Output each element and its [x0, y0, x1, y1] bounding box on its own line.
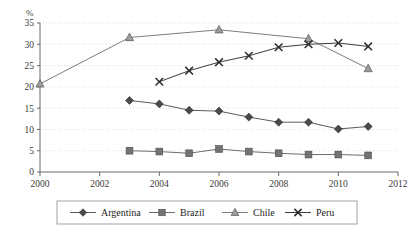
- data-point-marker: [275, 118, 283, 126]
- data-point-marker: [36, 79, 44, 87]
- legend-label: Brazil: [180, 207, 205, 218]
- data-point-marker: [215, 58, 223, 66]
- series-lines: [36, 25, 372, 158]
- data-point-marker: [156, 78, 164, 86]
- series-brazil: [126, 146, 371, 159]
- data-point-marker: [126, 96, 134, 104]
- data-point-marker: [305, 151, 312, 158]
- data-point-marker: [215, 107, 223, 115]
- legend-label: Argentina: [101, 207, 141, 218]
- data-point-marker: [159, 209, 165, 215]
- data-point-marker: [245, 52, 253, 60]
- y-tick-label: 30: [25, 40, 35, 50]
- data-point-marker: [155, 100, 163, 108]
- x-tick-label: 2000: [31, 179, 50, 189]
- data-point-marker: [185, 106, 193, 114]
- series-polyline: [159, 43, 368, 82]
- legend-item-brazil[interactable]: Brazil: [149, 207, 205, 218]
- data-point-marker: [335, 151, 342, 158]
- data-point-marker: [334, 125, 342, 133]
- y-axis-tick-labels: 05101520253035: [25, 18, 35, 177]
- series-peru: [156, 39, 372, 85]
- grid-lines: [40, 23, 398, 151]
- series-argentina: [126, 96, 373, 133]
- legend-item-chile[interactable]: Chile: [222, 207, 275, 218]
- x-axis: [40, 172, 398, 176]
- legend-label: Peru: [316, 207, 334, 218]
- chart-legend: ArgentinaBrazilChilePeru: [57, 201, 357, 224]
- data-point-marker: [364, 64, 372, 72]
- x-tick-label: 2012: [389, 179, 408, 189]
- data-point-marker: [185, 67, 193, 75]
- data-point-marker: [216, 146, 223, 153]
- legend-label: Chile: [253, 207, 275, 218]
- y-axis: [37, 23, 40, 172]
- legend-item-peru[interactable]: Peru: [285, 207, 334, 218]
- series-polyline: [40, 30, 368, 84]
- y-tick-label: 35: [25, 18, 35, 28]
- data-point-marker: [245, 148, 252, 155]
- line-chart: 05101520253035 2000200220042006200820102…: [0, 0, 415, 236]
- data-point-marker: [231, 208, 239, 215]
- x-tick-label: 2002: [90, 179, 109, 189]
- x-tick-label: 2006: [210, 179, 229, 189]
- y-tick-label: 20: [25, 82, 35, 92]
- y-tick-label: 0: [29, 167, 34, 177]
- data-point-marker: [79, 209, 87, 217]
- data-point-marker: [215, 25, 223, 33]
- x-tick-label: 2004: [150, 179, 169, 189]
- x-tick-label: 2008: [269, 179, 288, 189]
- data-point-marker: [245, 113, 253, 121]
- x-axis-tick-labels: 2000200220042006200820102012: [31, 179, 408, 189]
- data-point-marker: [156, 148, 163, 155]
- y-tick-label: 15: [25, 104, 35, 114]
- series-chile: [36, 25, 372, 87]
- data-point-marker: [365, 152, 372, 159]
- y-tick-label: 5: [29, 146, 34, 156]
- data-point-marker: [186, 150, 193, 157]
- data-point-marker: [275, 150, 282, 157]
- y-tick-label: 25: [25, 61, 35, 71]
- data-point-marker: [126, 147, 133, 154]
- y-axis-unit-label: %: [26, 8, 34, 18]
- y-tick-label: 10: [25, 125, 35, 135]
- chart-container: 05101520253035 2000200220042006200820102…: [0, 0, 415, 236]
- x-tick-label: 2010: [329, 179, 348, 189]
- data-point-marker: [305, 118, 313, 126]
- legend-item-argentina[interactable]: Argentina: [70, 207, 141, 218]
